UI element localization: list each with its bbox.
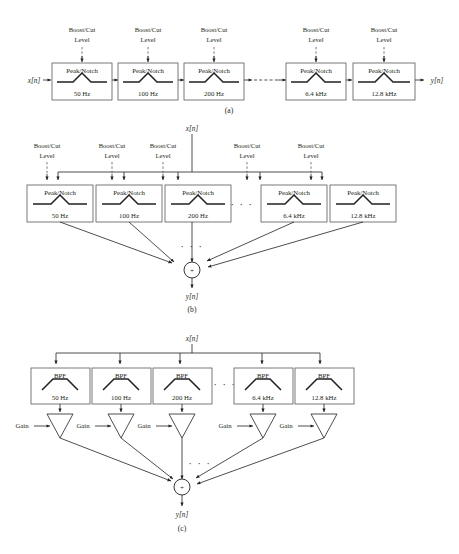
filter-block-b-5[interactable]: Peak/Notch 12.8 kHz <box>330 185 396 222</box>
summing-junction-c: + <box>174 479 190 495</box>
bpf-block-c-1-title: BPF <box>54 372 66 379</box>
output-signal-label-a: y[n] <box>430 77 444 85</box>
gain-label-c4: Gain <box>218 422 232 429</box>
control-label-line2-b3: Level <box>155 152 170 159</box>
control-label-line1-a2: Boost/Cut <box>135 26 162 33</box>
summing-junction-b: + <box>184 262 200 278</box>
filter-block-a-1-freq: 50 Hz <box>74 90 90 97</box>
bpf-block-c-1[interactable]: BPF 50 Hz <box>31 368 90 404</box>
filter-block-a-1[interactable]: Peak/Notch 50 Hz <box>52 63 112 100</box>
panel-a-controls: Boost/Cut Level Boost/Cut Level Boost/Cu… <box>69 26 398 62</box>
summing-junction-c-symbol: + <box>180 484 184 492</box>
panel-b-controls: Boost/Cut Level Boost/Cut Level Boost/Cu… <box>34 142 325 180</box>
control-label-line2-a5: Level <box>376 36 391 43</box>
row-ellipsis-b: · · · <box>231 199 254 210</box>
bpf-block-c-1-freq: 50 Hz <box>52 394 68 401</box>
panel-a-caption: (a) <box>225 106 234 115</box>
input-signal-label-a: x[n] <box>27 77 41 85</box>
filter-block-b-5-freq: 12.8 kHz <box>351 212 376 219</box>
bpf-block-c-2-title: BPF <box>115 372 127 379</box>
summing-junction-b-symbol: + <box>190 267 194 275</box>
sum-input-wire-b5 <box>208 222 363 267</box>
panel-c-caption: (c) <box>178 524 187 533</box>
input-signal-label-b: x[n] <box>185 125 199 133</box>
filter-block-a-2-freq: 100 Hz <box>138 90 158 97</box>
control-label-line2-b4: Level <box>239 152 254 159</box>
panel-b-caption: (b) <box>188 305 197 314</box>
bpf-block-c-2[interactable]: BPF 100 Hz <box>92 368 151 404</box>
input-signal-label-c: x[n] <box>185 335 199 343</box>
filter-block-a-4[interactable]: Peak/Notch 6.4 kHz <box>286 63 346 100</box>
gain-amplifier-c-3[interactable]: Gain <box>137 414 195 438</box>
figure-canvas: Boost/Cut Level Boost/Cut Level Boost/Cu… <box>0 0 459 554</box>
bpf-block-c-4[interactable]: BPF 6.4 kHz <box>234 368 293 404</box>
gain-amplifier-c-5[interactable]: Gain <box>279 414 337 438</box>
gain-amplifier-c-2-triangle <box>108 414 134 438</box>
control-label-line1-b2: Boost/Cut <box>99 142 126 149</box>
control-label-line1-a4: Boost/Cut <box>303 26 330 33</box>
sum-input-wire-c1 <box>60 438 171 481</box>
sum-input-wire-b1 <box>60 222 172 263</box>
bpf-block-c-2-freq: 100 Hz <box>111 394 131 401</box>
equalizer-topologies-diagram: Boost/Cut Level Boost/Cut Level Boost/Cu… <box>0 0 459 554</box>
gain-label-c1: Gain <box>15 422 29 429</box>
panel-c: x[n] BPF 50 Hz BPF 100 Hz BPF 200 Hz · ·… <box>15 335 354 533</box>
control-label-line1-b3: Boost/Cut <box>150 142 177 149</box>
bpf-block-c-5-freq: 12.8 kHz <box>312 394 337 401</box>
control-label-line2-a4: Level <box>308 36 323 43</box>
row-ellipsis-c: · · · <box>214 379 237 390</box>
bpf-block-c-4-freq: 6.4 kHz <box>252 394 274 401</box>
output-signal-label-b: y[n] <box>185 293 199 301</box>
bpf-block-c-3[interactable]: BPF 200 Hz <box>153 368 212 404</box>
bpf-block-c-5-title: BPF <box>318 372 330 379</box>
control-label-line1-b5: Boost/Cut <box>298 142 325 149</box>
control-label-line2-b1: Level <box>39 152 54 159</box>
sum-ellipsis-b: · · · <box>181 241 204 252</box>
gain-amplifier-c-3-triangle <box>169 414 195 438</box>
filter-block-b-4-freq: 6.4 kHz <box>283 212 305 219</box>
filter-block-b-3[interactable]: Peak/Notch 200 Hz <box>165 185 231 222</box>
control-label-line1-a1: Boost/Cut <box>69 26 96 33</box>
sum-input-wire-b2 <box>129 222 174 262</box>
control-label-line2-a1: Level <box>74 36 89 43</box>
control-label-line2-b2: Level <box>104 152 119 159</box>
control-label-line1-b4: Boost/Cut <box>234 142 261 149</box>
filter-block-a-3-freq: 200 Hz <box>204 90 224 97</box>
filter-block-b-2[interactable]: Peak/Notch 100 Hz <box>96 185 162 222</box>
gain-amplifier-c-4[interactable]: Gain <box>218 414 276 438</box>
filter-block-b-4[interactable]: Peak/Notch 6.4 kHz <box>261 185 327 222</box>
sum-input-wire-c2 <box>121 438 173 479</box>
output-signal-label-c: y[n] <box>175 511 189 519</box>
control-label-line2-b5: Level <box>303 152 318 159</box>
control-label-line2-a3: Level <box>206 36 221 43</box>
bpf-block-c-3-freq: 200 Hz <box>172 394 192 401</box>
filter-block-b-2-freq: 100 Hz <box>119 212 139 219</box>
control-label-line2-a2: Level <box>140 36 155 43</box>
filter-block-b-1[interactable]: Peak/Notch 50 Hz <box>27 185 93 222</box>
gain-amplifier-c-5-triangle <box>311 414 337 438</box>
sum-input-wire-c5 <box>197 438 324 484</box>
gain-label-c2: Gain <box>76 422 90 429</box>
filter-block-a-5[interactable]: Peak/Notch 12.8 kHz <box>353 63 415 100</box>
filter-block-a-5-freq: 12.8 kHz <box>372 90 397 97</box>
sum-input-wire-b4 <box>207 222 294 261</box>
gain-label-c3: Gain <box>137 422 151 429</box>
gain-label-c5: Gain <box>279 422 293 429</box>
sum-ellipsis-c: · · · <box>189 458 212 469</box>
filter-block-b-3-freq: 200 Hz <box>188 212 208 219</box>
control-label-line1-a3: Boost/Cut <box>201 26 228 33</box>
filter-block-b-1-freq: 50 Hz <box>52 212 68 219</box>
bpf-block-c-5[interactable]: BPF 12.8 kHz <box>295 368 354 404</box>
panel-b: x[n] Boost/Cut Level Boost/Cut Level Boo… <box>27 125 396 314</box>
control-label-line1-b1: Boost/Cut <box>34 142 61 149</box>
gain-amplifier-c-4-triangle <box>250 414 276 438</box>
filter-block-a-4-freq: 6.4 kHz <box>305 90 327 97</box>
control-label-line1-a5: Boost/Cut <box>371 26 398 33</box>
gain-amplifier-c-1[interactable]: Gain <box>15 414 73 438</box>
bpf-block-c-3-title: BPF <box>176 372 188 379</box>
filter-block-a-2[interactable]: Peak/Notch 100 Hz <box>118 63 178 100</box>
bpf-block-c-4-title: BPF <box>257 372 269 379</box>
filter-block-a-3[interactable]: Peak/Notch 200 Hz <box>184 63 244 100</box>
gain-amplifier-c-2[interactable]: Gain <box>76 414 134 438</box>
panel-a: Boost/Cut Level Boost/Cut Level Boost/Cu… <box>27 26 444 115</box>
